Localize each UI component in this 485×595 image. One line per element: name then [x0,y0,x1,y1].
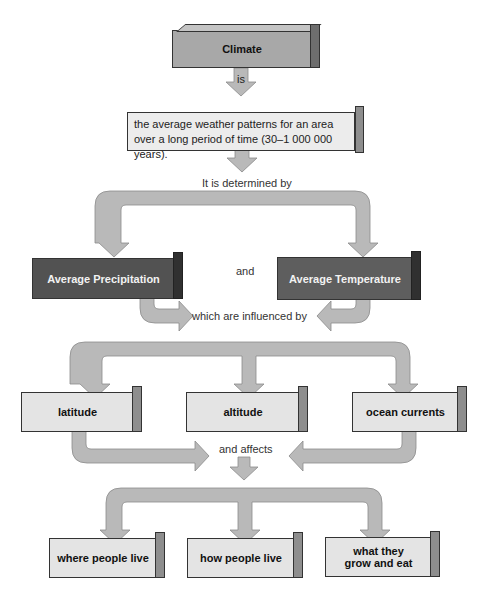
text-and-affects: and affects [219,443,273,455]
text-and: and [236,265,254,277]
node-label: altitude [223,406,262,418]
box-side-face [132,386,142,432]
node-label: Average Temperature [289,273,401,285]
box-side-face [298,386,308,432]
node-label: what they grow and eat [339,545,419,569]
node-altitude: altitude [186,392,300,432]
node-label: Climate [222,43,262,55]
node-definition: the average weather patterns for an area… [127,112,355,151]
arrow-definition-down [227,150,257,172]
node-label: how people live [200,552,282,564]
box-top-face [176,24,322,32]
box-side-face [173,252,183,299]
arrow-bracket-influences [70,342,418,398]
box-side-face [430,531,440,577]
node-label: ocean currents [366,406,445,418]
definition-side-face [355,106,364,153]
box-side-face [411,251,421,300]
node-label: Average Precipitation [47,273,160,285]
box-side-face [457,386,467,432]
arrow-latitude-right [72,430,209,471]
node-ocean-currents: ocean currents [352,392,459,432]
node-average-temperature: Average Temperature [277,257,413,300]
arrow-bracket-effects [100,488,390,544]
arrow-affects-down [230,457,258,480]
arrow-ocean-left [289,430,416,471]
box-side-face [155,532,165,578]
node-where-people-live: where people live [49,538,157,578]
box-side-face [293,532,303,578]
node-average-precipitation: Average Precipitation [32,258,175,299]
text-determined-by: It is determined by [202,177,292,189]
text-influenced-by: which are influenced by [192,310,307,322]
node-how-people-live: how people live [187,538,295,578]
box-side-face [310,24,320,68]
node-label: where people live [57,552,149,564]
arrow-bracket-factors [95,191,378,257]
node-label: latitude [58,406,97,418]
node-what-they-grow-and-eat: what they grow and eat [325,537,432,577]
node-climate: Climate [172,30,312,68]
node-latitude: latitude [21,392,134,432]
link-is: is [237,73,245,85]
